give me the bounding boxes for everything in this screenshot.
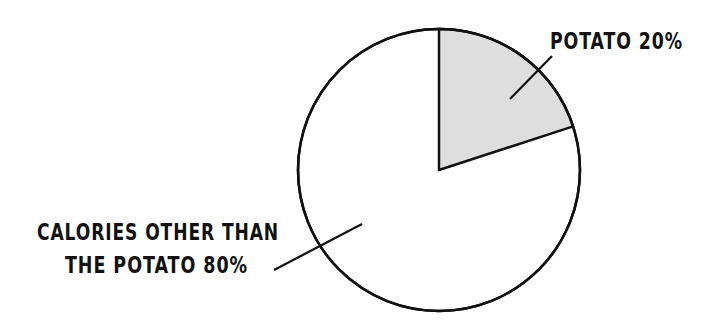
label-potato: POTATO 20% [550,28,683,54]
label-other-line2: THE POTATO 80% [65,252,248,278]
label-other-line1: CALORIES OTHER THAN [37,219,279,245]
pie-chart: POTATO 20% CALORIES OTHER THAN THE POTAT… [0,0,719,332]
